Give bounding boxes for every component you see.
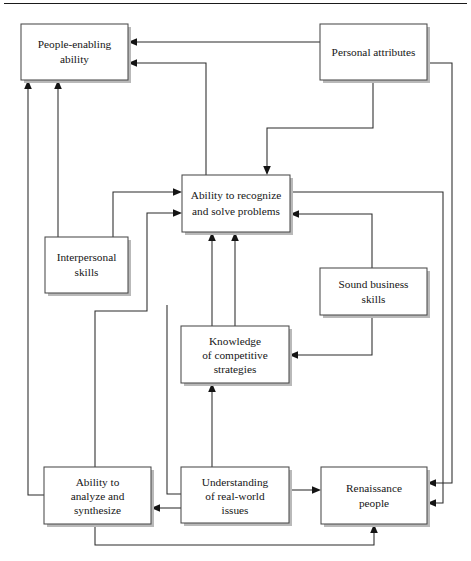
node-layer: People-enabling ability Personal attribu… <box>21 24 430 527</box>
node-rect <box>321 467 427 524</box>
node-label-line-2: of competitive <box>202 349 268 361</box>
edge-ability-to-analyze-to-people-enabling-ability <box>28 86 44 495</box>
edge-personal-attributes-to-renaissance-people <box>427 63 452 483</box>
node-label-line-1: Ability to recognize <box>191 189 281 201</box>
node-label-line-2: skills <box>75 266 99 278</box>
node-ability-to-analyze-and-synthesize[interactable]: Ability to analyze and synthesize <box>44 467 154 527</box>
node-rect <box>182 175 290 232</box>
node-label-line-1: Renaissance <box>346 482 402 494</box>
node-label-line-1: Ability to <box>76 476 120 488</box>
node-people-enabling-ability[interactable]: People-enabling ability <box>21 24 131 83</box>
node-label-line-2: ability <box>60 53 89 65</box>
node-label-line-2: of real-world <box>205 490 265 502</box>
node-label-line-1: Personal attributes <box>332 46 416 58</box>
node-label-line-3: issues <box>222 504 249 516</box>
arrowhead-into-ability-to-recognize-top <box>263 166 271 175</box>
node-interpersonal-skills[interactable]: Interpersonal skills <box>45 237 131 296</box>
node-label-line-1: Interpersonal <box>57 251 117 263</box>
edge-understanding-left-feeder <box>167 305 181 494</box>
edge-ability-to-analyze-to-renaissance-people <box>95 524 374 545</box>
edge-interpersonal-skills-to-ability-to-recognize <box>113 192 179 237</box>
node-label-line-1: Understanding <box>202 476 269 488</box>
arrowhead-into-ability-to-recognize-left-upper <box>173 188 182 196</box>
node-label-line-2: and solve problems <box>192 205 280 217</box>
node-label-line-3: strategies <box>214 363 257 375</box>
node-label-line-1: People-enabling <box>38 38 112 50</box>
node-ability-to-recognize-and-solve-problems[interactable]: Ability to recognize and solve problems <box>182 175 293 235</box>
node-sound-business-skills[interactable]: Sound business skills <box>320 268 430 318</box>
edge-ability-to-recognize-to-renaissance-people <box>290 192 443 503</box>
node-label-line-3: synthesize <box>74 504 121 516</box>
arrowhead-into-renaissance-people-left <box>312 486 321 494</box>
node-personal-attributes[interactable]: Personal attributes <box>320 24 430 83</box>
node-label-line-1: Sound business <box>339 278 409 290</box>
edge-personal-attributes-to-ability-to-recognize <box>267 80 373 172</box>
node-label-line-1: Knowledge <box>209 335 261 347</box>
edge-ability-to-recognize-to-people-enabling-ability <box>131 63 206 175</box>
node-renaissance-people[interactable]: Renaissance people <box>321 467 430 527</box>
node-rect <box>320 268 427 315</box>
edge-sound-business-skills-to-knowledge <box>292 315 372 355</box>
relationship-flow-diagram: People-enabling ability Personal attribu… <box>0 0 471 561</box>
node-knowledge-of-competitive-strategies[interactable]: Knowledge of competitive strategies <box>181 326 292 386</box>
node-understanding-of-real-world-issues[interactable]: Understanding of real-world issues <box>181 467 292 526</box>
arrowhead-into-ability-to-recognize-left-lower <box>173 209 182 217</box>
node-label-line-2: people <box>359 497 389 509</box>
node-label-line-2: analyze and <box>71 490 125 502</box>
edge-sound-business-skills-to-ability-to-recognize <box>293 214 372 268</box>
flow-diagram-canvas: People-enabling ability Personal attribu… <box>0 0 471 561</box>
node-label-line-2: skills <box>362 293 386 305</box>
